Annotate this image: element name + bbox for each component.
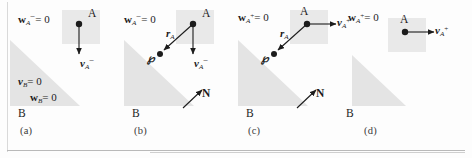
label-velocity-a-plus: vA+ xyxy=(435,25,448,38)
label-ra: rA xyxy=(166,28,175,41)
label-omega-a-plus: wA+= 0 xyxy=(238,12,269,25)
label-body-a: A xyxy=(88,8,96,20)
label-body-b: B xyxy=(246,108,254,120)
label-velocity-a-minus: vA− xyxy=(80,56,94,71)
panel-d: wA+= 0 A vA+ B (d) xyxy=(352,0,467,140)
panel-b: wA−= 0 A rA ℘ vA− N B (b) xyxy=(122,0,237,140)
body-b-incline xyxy=(238,40,308,106)
body-a-center-dot xyxy=(190,21,196,27)
bottom-rule-secondary xyxy=(150,152,465,153)
bottom-rule xyxy=(7,150,465,151)
figure-container: wA−= 0 A vA− vB= 0 wB= 0 B (a) wA−= 0 xyxy=(0,0,472,158)
label-velocity-b: vB= 0 xyxy=(18,76,42,89)
label-velocity-a-minus: vA− xyxy=(194,56,208,71)
label-omega-a-plus: wA+= 0 xyxy=(348,12,379,25)
label-omega-a-minus: wA−= 0 xyxy=(18,12,50,27)
label-body-a: A xyxy=(400,14,408,26)
label-contact-point-p: ℘ xyxy=(261,53,269,64)
label-body-b: B xyxy=(132,108,140,120)
label-body-a: A xyxy=(300,6,308,18)
label-normal-n: N xyxy=(316,88,324,100)
body-b-incline xyxy=(124,40,194,106)
caption-a: (a) xyxy=(20,125,32,136)
label-normal-n: N xyxy=(202,88,210,100)
panel-a: wA−= 0 A vA− vB= 0 wB= 0 B (a) xyxy=(8,0,123,140)
caption-c: (c) xyxy=(248,125,260,136)
label-contact-point-p: ℘ xyxy=(147,53,155,64)
body-a-center-dot xyxy=(402,29,408,35)
body-a-center-dot xyxy=(76,21,82,27)
contact-point-dot xyxy=(271,51,277,57)
label-body-b: B xyxy=(346,108,354,120)
label-ra: rA xyxy=(280,28,289,41)
label-body-b: B xyxy=(18,108,26,120)
caption-d: (d) xyxy=(364,125,377,136)
panel-c: wA+= 0 A rA ℘ vA+ N B (c) xyxy=(236,0,351,140)
label-body-a: A xyxy=(202,8,210,20)
label-omega-b: wB= 0 xyxy=(30,92,57,105)
contact-point-dot xyxy=(157,51,163,57)
caption-b: (b) xyxy=(134,125,147,136)
body-a-square xyxy=(290,10,328,44)
body-a-center-dot xyxy=(304,21,310,27)
label-omega-a-minus: wA−= 0 xyxy=(124,12,156,27)
